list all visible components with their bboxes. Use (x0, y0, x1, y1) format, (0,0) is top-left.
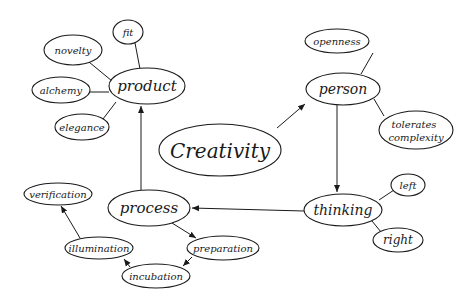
node-process: process (108, 190, 190, 226)
edge-thinking-right (372, 221, 381, 232)
creativity-label: Creativity (170, 139, 271, 163)
tolerates-label-line1: tolerates (392, 119, 437, 130)
elegance-label: elegance (59, 122, 104, 133)
node-elegance: elegance (55, 114, 109, 140)
node-person: person (306, 73, 380, 105)
node-verification: verification (24, 183, 92, 205)
edge-person-openness (361, 53, 373, 74)
edge-thinking-left (379, 190, 394, 200)
edge-creativity-person (277, 104, 305, 128)
node-thinking: thinking (304, 194, 382, 226)
alchemy-label: alchemy (40, 85, 83, 96)
edge-preparation-incubation (183, 257, 192, 266)
edge-thinking-process (192, 208, 304, 211)
node-novelty: novelty (44, 35, 102, 65)
node-alchemy: alchemy (32, 77, 90, 103)
edge-product-novelty (89, 62, 112, 81)
person-label: person (319, 81, 368, 97)
tolerates-complexity-ellipse (379, 111, 453, 149)
complexity-label-line2: complexity (388, 132, 443, 143)
creativity-concept-map: Creativity product fit novelty alchemy e… (0, 0, 474, 299)
node-tolerates-complexity: tolerates complexity (379, 111, 453, 149)
product-label: product (117, 77, 177, 95)
edge-product-elegance (103, 102, 116, 119)
novelty-label: novelty (55, 45, 92, 56)
left-label: left (400, 180, 418, 191)
incubation-label: incubation (129, 271, 183, 282)
node-left: left (391, 174, 425, 196)
node-incubation: incubation (122, 264, 190, 288)
node-preparation: preparation (187, 236, 259, 260)
edge-person-tolerates-complexity (374, 99, 384, 116)
edge-illumination-verification (61, 206, 80, 238)
node-illumination: illumination (65, 237, 133, 259)
node-product: product (109, 68, 185, 104)
edge-process-preparation (172, 223, 196, 238)
thinking-label: thinking (313, 202, 372, 218)
process-label: process (120, 199, 179, 217)
preparation-label: preparation (193, 243, 253, 254)
right-label: right (383, 233, 413, 247)
node-right: right (373, 228, 423, 252)
illumination-label: illumination (69, 243, 130, 254)
node-fit: fit (113, 20, 143, 44)
fit-label: fit (122, 27, 135, 38)
node-creativity: Creativity (159, 124, 281, 176)
openness-label: openness (313, 36, 360, 47)
verification-label: verification (29, 189, 86, 200)
edge-product-fit (135, 43, 140, 69)
edge-incubation-illumination (124, 259, 130, 267)
node-openness: openness (305, 29, 369, 53)
